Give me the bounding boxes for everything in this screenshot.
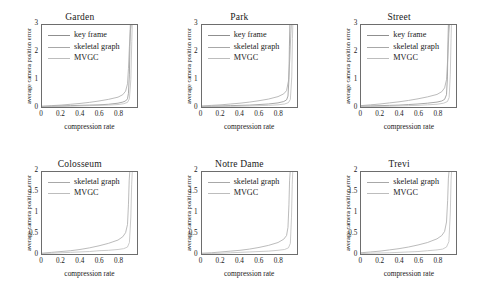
y-tick-label: 0 bbox=[354, 251, 358, 258]
x-tick-labels: 00.20.40.60.8 bbox=[201, 111, 298, 121]
x-tick-label: 0.8 bbox=[274, 111, 283, 118]
legend-item[interactable]: skeletal graph bbox=[367, 178, 439, 187]
x-tick-label: 0.6 bbox=[414, 111, 423, 118]
chart-panel: Gardenaverage camera position error0123k… bbox=[0, 0, 160, 147]
legend-line-icon bbox=[48, 58, 70, 59]
legend-item[interactable]: MVGC bbox=[48, 54, 120, 63]
figure-grid: Gardenaverage camera position error0123k… bbox=[0, 0, 479, 293]
legend-line-icon bbox=[208, 35, 230, 36]
x-tick-label: 0 bbox=[199, 111, 203, 118]
x-tick-label: 0.4 bbox=[395, 258, 404, 265]
y-tick-label: 1 bbox=[194, 76, 198, 83]
x-tick-label: 0 bbox=[359, 111, 363, 118]
legend-item[interactable]: skeletal graph bbox=[48, 178, 120, 187]
y-tick-label: 0 bbox=[34, 251, 38, 258]
legend-item[interactable]: MVGC bbox=[208, 189, 280, 198]
y-tick-labels: 00.511.52 bbox=[20, 171, 38, 255]
legend: key frameskeletal graphMVGC bbox=[208, 31, 280, 63]
legend-line-icon bbox=[367, 193, 389, 194]
x-tick-label: 0.6 bbox=[254, 111, 263, 118]
legend-label: skeletal graph bbox=[74, 43, 120, 51]
legend-line-icon bbox=[208, 193, 230, 194]
x-tick-label: 0.2 bbox=[56, 111, 65, 118]
y-tick-label: 0.5 bbox=[348, 230, 357, 237]
legend-item[interactable]: key frame bbox=[367, 31, 439, 40]
y-tick-label: 1 bbox=[34, 76, 38, 83]
y-tick-label: 3 bbox=[354, 20, 358, 27]
plot-area: key frameskeletal graphMVGC bbox=[41, 24, 138, 108]
legend-item[interactable]: skeletal graph bbox=[367, 43, 439, 52]
plot-area: key frameskeletal graphMVGC bbox=[360, 24, 457, 108]
y-tick-labels: 00.511.52 bbox=[180, 171, 198, 255]
legend-line-icon bbox=[48, 182, 70, 183]
legend-item[interactable]: MVGC bbox=[367, 54, 439, 63]
legend-item[interactable]: MVGC bbox=[48, 189, 120, 198]
legend-item[interactable]: skeletal graph bbox=[48, 43, 120, 52]
y-tick-labels: 0123 bbox=[20, 24, 38, 108]
legend-item[interactable]: skeletal graph bbox=[208, 43, 280, 52]
chart-panel: Parkaverage camera position error0123key… bbox=[160, 0, 320, 147]
legend-item[interactable]: skeletal graph bbox=[208, 178, 280, 187]
legend-item[interactable]: MVGC bbox=[367, 189, 439, 198]
x-tick-labels: 00.20.40.60.8 bbox=[360, 258, 457, 268]
x-tick-labels: 00.20.40.60.8 bbox=[201, 258, 298, 268]
x-tick-labels: 00.20.40.60.8 bbox=[360, 111, 457, 121]
legend-label: skeletal graph bbox=[393, 43, 439, 51]
plot-area: skeletal graphMVGC bbox=[41, 171, 138, 255]
legend-label: skeletal graph bbox=[234, 43, 280, 51]
legend-label: MVGC bbox=[234, 189, 259, 197]
y-tick-label: 2 bbox=[354, 167, 358, 174]
x-axis-label: compression rate bbox=[360, 269, 457, 278]
x-tick-label: 0.8 bbox=[433, 258, 442, 265]
x-tick-label: 0.2 bbox=[375, 258, 384, 265]
legend-item[interactable]: MVGC bbox=[208, 54, 280, 63]
y-tick-label: 0.5 bbox=[29, 230, 38, 237]
legend-line-icon bbox=[367, 182, 389, 183]
legend: key frameskeletal graphMVGC bbox=[367, 31, 439, 63]
legend-line-icon bbox=[367, 35, 389, 36]
legend: key frameskeletal graphMVGC bbox=[48, 31, 120, 63]
legend-label: MVGC bbox=[393, 54, 418, 62]
y-tick-labels: 00.511.52 bbox=[339, 171, 357, 255]
legend: skeletal graphMVGC bbox=[48, 178, 120, 199]
y-tick-label: 3 bbox=[194, 20, 198, 27]
x-tick-label: 0 bbox=[199, 258, 203, 265]
x-tick-labels: 00.20.40.60.8 bbox=[41, 111, 138, 121]
y-tick-label: 2 bbox=[194, 167, 198, 174]
x-tick-label: 0.4 bbox=[235, 111, 244, 118]
x-tick-label: 0.2 bbox=[216, 111, 225, 118]
chart-panel: Streetaverage camera position error0123k… bbox=[319, 0, 479, 147]
legend-label: skeletal graph bbox=[393, 178, 439, 186]
y-tick-label: 2 bbox=[354, 48, 358, 55]
x-tick-label: 0.4 bbox=[75, 111, 84, 118]
legend-label: key frame bbox=[234, 31, 267, 39]
legend-line-icon bbox=[48, 47, 70, 48]
x-axis-label: compression rate bbox=[360, 122, 457, 131]
y-tick-label: 2 bbox=[34, 167, 38, 174]
legend-item[interactable]: key frame bbox=[48, 31, 120, 40]
x-tick-label: 0.8 bbox=[114, 111, 123, 118]
chart-panel: Colosseumaverage camera position error00… bbox=[0, 147, 160, 293]
y-tick-label: 1.5 bbox=[189, 188, 198, 195]
legend-label: MVGC bbox=[234, 54, 259, 62]
legend-label: skeletal graph bbox=[234, 178, 280, 186]
x-tick-label: 0.8 bbox=[114, 258, 123, 265]
legend-line-icon bbox=[208, 47, 230, 48]
y-tick-label: 2 bbox=[194, 48, 198, 55]
legend-line-icon bbox=[48, 193, 70, 194]
y-tick-label: 0 bbox=[354, 104, 358, 111]
plot-area: skeletal graphMVGC bbox=[201, 171, 298, 255]
x-tick-label: 0.6 bbox=[95, 111, 104, 118]
legend-item[interactable]: key frame bbox=[208, 31, 280, 40]
legend-label: key frame bbox=[74, 31, 107, 39]
legend-label: MVGC bbox=[74, 54, 99, 62]
x-tick-label: 0 bbox=[39, 258, 43, 265]
x-tick-labels: 00.20.40.60.8 bbox=[41, 258, 138, 268]
legend-label: MVGC bbox=[393, 189, 418, 197]
x-tick-label: 0.4 bbox=[395, 111, 404, 118]
x-tick-label: 0 bbox=[359, 258, 363, 265]
plot-area: key frameskeletal graphMVGC bbox=[201, 24, 298, 108]
y-tick-label: 2 bbox=[34, 48, 38, 55]
legend-line-icon bbox=[48, 35, 70, 36]
y-tick-label: 0 bbox=[194, 104, 198, 111]
